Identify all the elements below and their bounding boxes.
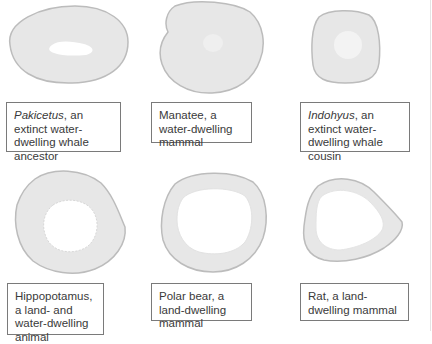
caption-pakicetus: Pakicetus, an extinct water-dwelling wha…	[6, 102, 121, 152]
caption-rat: Rat, a land-dwelling mammal	[300, 283, 409, 321]
caption-rat-text: Rat, a land-dwelling mammal	[308, 290, 397, 316]
pakicetus-bone-section	[0, 0, 140, 95]
caption-indohyus: Indohyus, an extinct water-dwelling whal…	[300, 102, 410, 152]
indohyus-bone-section	[305, 5, 390, 90]
polar-bear-bone-section	[155, 168, 275, 278]
hippopotamus-bone-section	[5, 165, 135, 280]
caption-hippopotamus: Hippopotamus, a land- and water-dwelling…	[7, 283, 104, 335]
rat-bone-section	[298, 172, 410, 268]
caption-hippopotamus-text: Hippopotamus, a land- and water-dwelling…	[15, 290, 92, 343]
manatee-bone-section	[150, 0, 275, 100]
caption-indohyus-genus: Indohyus	[308, 109, 355, 121]
caption-manatee: Manatee, a water-dwelling mammal	[151, 102, 252, 143]
caption-polar-bear-text: Polar bear, a land-dwelling mammal	[159, 290, 226, 329]
caption-manatee-text: Manatee, a water-dwelling mammal	[159, 109, 233, 148]
caption-polar-bear: Polar bear, a land-dwelling mammal	[151, 283, 252, 321]
caption-pakicetus-genus: Pakicetus	[14, 109, 64, 121]
page-edge-divider	[430, 0, 431, 331]
